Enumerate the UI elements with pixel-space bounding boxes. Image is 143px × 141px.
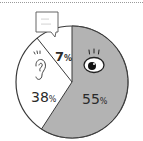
slice-suffix-7: % xyxy=(64,54,72,63)
slice-label-7: 7% xyxy=(55,48,72,64)
slice-suffix-55: % xyxy=(100,97,108,106)
slice-label-55: 55% xyxy=(82,91,107,107)
slice-value-7: 7 xyxy=(55,49,64,64)
slice-value-38: 38 xyxy=(31,89,49,105)
slice-label-38: 38% xyxy=(31,89,56,105)
pie-chart xyxy=(0,0,143,141)
slice-value-55: 55 xyxy=(82,91,100,107)
slice-suffix-38: % xyxy=(49,95,57,104)
